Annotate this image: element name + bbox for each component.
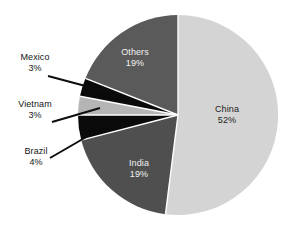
pie-slice-china[interactable] <box>166 15 279 215</box>
pie-chart-canvas <box>0 0 291 227</box>
pie-chart: China 52% Others 19% India 19% Mexico 3%… <box>0 0 291 227</box>
leader-line-brazil <box>50 136 88 158</box>
